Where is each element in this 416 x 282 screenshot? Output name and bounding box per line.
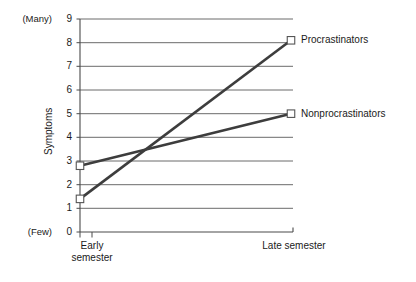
y-tick-label-7: 7 [58, 61, 72, 71]
x-tick-marks [80, 232, 92, 238]
marker-nonprocrastinators-late [287, 110, 295, 118]
y-tick-label-5: 5 [58, 109, 72, 119]
x-category-label-early: Early semester [56, 240, 128, 263]
y-axis-many-label: (Many) [2, 14, 52, 24]
y-tick-label-4: 4 [58, 132, 72, 142]
y-tick-label-3: 3 [58, 156, 72, 166]
series-line-nonprocrastinators [80, 114, 291, 166]
x-category-label-late: Late semester [249, 240, 339, 252]
series-label-procrastinators: Procrastinators [301, 35, 368, 45]
y-axis-title: Symptoms [44, 108, 54, 155]
series-line-procrastinators [80, 40, 291, 199]
x-category-early-line2: semester [71, 252, 112, 263]
y-tick-label-9: 9 [58, 14, 72, 24]
y-axis-few-label: (Few) [2, 227, 52, 237]
x-category-early-line1: Early [81, 240, 104, 251]
symptoms-line-chart: 9 8 7 6 5 4 3 2 1 0 (Many) (Few) Symptom… [0, 0, 416, 282]
series-label-nonprocrastinators: Nonprocrastinators [301, 109, 385, 119]
marker-procrastinators-early [76, 195, 84, 203]
y-tick-label-6: 6 [58, 85, 72, 95]
marker-procrastinators-late [287, 37, 295, 45]
gridlines [80, 19, 293, 208]
y-tick-label-1: 1 [58, 203, 72, 213]
y-tick-label-2: 2 [58, 180, 72, 190]
y-tick-label-8: 8 [58, 38, 72, 48]
marker-nonprocrastinators-early [76, 162, 84, 170]
y-tick-label-0: 0 [58, 227, 72, 237]
